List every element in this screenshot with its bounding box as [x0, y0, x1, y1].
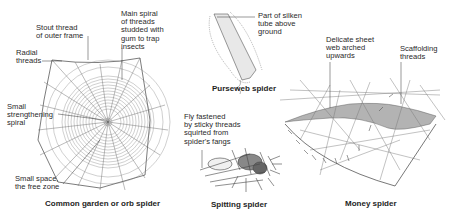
label-outer-frame: Stout thread of outer frame — [36, 24, 83, 40]
caption-spitting-spider: Spitting spider — [211, 200, 267, 209]
label-radial-threads: Radial threads — [16, 49, 41, 65]
label-silken-tube: Part of silken tube above ground — [258, 12, 302, 37]
label-sheet-web: Delicate sheet web arched upwards — [326, 36, 374, 61]
label-fly-fastened: Fly fastened by sticky threads squirted … — [184, 113, 241, 146]
label-strengthening-spiral: Small strengthening spiral — [7, 103, 53, 128]
caption-money-spider: Money spider — [345, 199, 397, 208]
label-free-zone: Small space, the free zone — [15, 175, 59, 191]
caption-purseweb-spider: Purseweb spider — [212, 84, 276, 93]
money-spider-illustration — [280, 62, 445, 186]
spitting-spider-illustration — [200, 148, 282, 192]
label-scaffolding-threads: Scaffolding threads — [400, 45, 437, 61]
label-main-spiral: Main spiral of threads studded with gum … — [121, 10, 164, 51]
orb-web-illustration — [38, 36, 170, 190]
caption-orb-spider: Common garden or orb spider — [45, 199, 160, 208]
purseweb-illustration — [209, 12, 262, 94]
